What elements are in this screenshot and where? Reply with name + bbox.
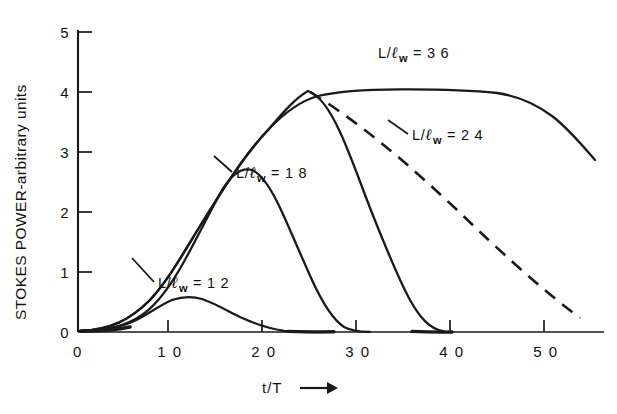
y-tick-label-5: 5 bbox=[60, 24, 70, 41]
curve-label-1-2: L/ℓw = 1 2 bbox=[132, 258, 229, 294]
x-tick-label-1: 1 0 bbox=[157, 343, 182, 360]
y-tick-label-2: 2 bbox=[60, 204, 70, 221]
x-tick-labels: 0 1 0 2 0 3 0 4 0 5 0 bbox=[73, 343, 559, 360]
curve-2-4-dashed bbox=[310, 92, 580, 318]
y-tick-label-3: 3 bbox=[60, 144, 70, 161]
curve-label-1-2-leader bbox=[132, 258, 154, 282]
chart-svg: 5 4 3 2 1 0 0 1 0 2 0 3 0 4 0 5 0 STOKES… bbox=[0, 0, 617, 414]
axes-group bbox=[78, 30, 604, 332]
curve-1-8 bbox=[80, 169, 370, 332]
y-tick-labels: 5 4 3 2 1 0 bbox=[60, 24, 70, 341]
curve-label-1-2-text: L/ℓw = 1 2 bbox=[158, 273, 229, 294]
curve-2-4-solid bbox=[80, 91, 444, 332]
baseline-thickening-right bbox=[412, 331, 452, 332]
curve-label-2-4: L/ℓw = 2 4 bbox=[388, 120, 483, 146]
x-tick-label-3: 3 0 bbox=[345, 343, 370, 360]
curve-label-2-4-leader bbox=[388, 120, 408, 134]
curve-label-1-8-text: L/ℓw = 1 8 bbox=[236, 163, 307, 184]
x-axis-arrow-head bbox=[327, 382, 338, 394]
stokes-power-figure: 5 4 3 2 1 0 0 1 0 2 0 3 0 4 0 5 0 STOKES… bbox=[0, 0, 617, 414]
x-axis-title: t/T bbox=[262, 379, 283, 396]
x-tick-label-5: 5 0 bbox=[533, 343, 558, 360]
curve-1-2 bbox=[80, 297, 326, 332]
x-tick-label-0: 0 bbox=[73, 343, 83, 360]
y-axis-title: STOKES POWER-arbitrary units bbox=[12, 84, 29, 320]
curve-label-3-6-text: L/ℓw = 3 6 bbox=[378, 43, 449, 64]
x-axis-title-group: t/T bbox=[262, 379, 338, 396]
x-tick-label-2: 2 0 bbox=[251, 343, 276, 360]
curve-label-2-4-text: L/ℓw = 2 4 bbox=[412, 125, 483, 146]
y-tick-label-1: 1 bbox=[60, 264, 70, 281]
y-tick-label-0: 0 bbox=[60, 324, 70, 341]
curve-label-1-8-leader bbox=[214, 156, 232, 172]
y-tick-label-4: 4 bbox=[60, 84, 70, 101]
x-tick-label-4: 4 0 bbox=[439, 343, 464, 360]
curve-label-3-6: L/ℓw = 3 6 bbox=[378, 43, 449, 64]
